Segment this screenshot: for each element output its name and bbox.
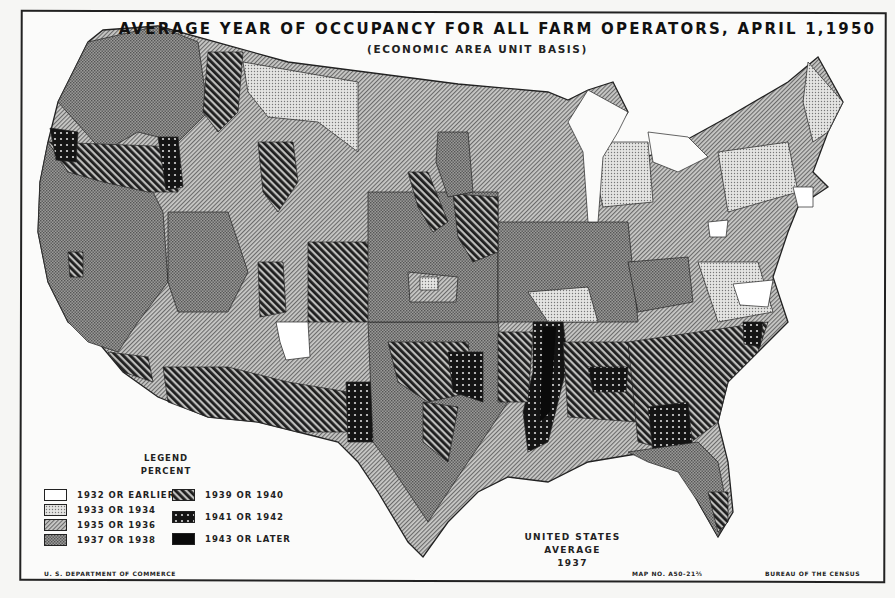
us-average-annotation: UNITED STATES AVERAGE 1937 [505,531,640,570]
legend-item: 1935 OR 1936 [44,517,175,532]
footer-agency: U. S. DEPARTMENT OF COMMERCE [44,570,176,577]
swatch-dark-dotted-icon [172,511,195,523]
legend-title: LEGEND [38,452,294,465]
swatch-bold-diagonal-icon [172,489,195,501]
legend: LEGEND PERCENT 1932 OR EARLIER 1933 OR 1… [44,452,294,478]
legend-item: 1937 OR 1938 [44,532,175,547]
footer-map-number: MAP NO. A50-21⅔ [632,570,703,577]
legend-item: 1939 OR 1940 [172,487,291,502]
swatch-crosshatch-icon [44,534,67,546]
swatch-blank-icon [44,489,67,501]
footer-bureau: BUREAU OF THE CENSUS [765,570,860,577]
legend-item: 1943 OR LATER [172,531,291,546]
legend-column-2: 1939 OR 1940 1941 OR 1942 1943 OR LATER [172,487,291,546]
swatch-fine-dots-icon [44,504,67,516]
us-average-label: UNITED STATES AVERAGE [505,531,640,557]
legend-column-1: 1932 OR EARLIER 1933 OR 1934 1935 OR 193… [44,487,175,547]
legend-item: 1941 OR 1942 [172,509,291,524]
legend-subtitle: PERCENT [38,465,294,478]
us-map [28,22,858,567]
us-average-value: 1937 [505,557,640,570]
map-title: AVERAGE YEAR OF OCCUPANCY FOR ALL FARM O… [0,20,895,38]
swatch-fine-diagonal-icon [44,519,67,531]
legend-item: 1933 OR 1934 [44,502,175,517]
swatch-solid-black-icon [172,533,195,545]
legend-item: 1932 OR EARLIER [44,487,175,502]
map-subtitle: (ECONOMIC AREA UNIT BASIS) [0,43,895,55]
